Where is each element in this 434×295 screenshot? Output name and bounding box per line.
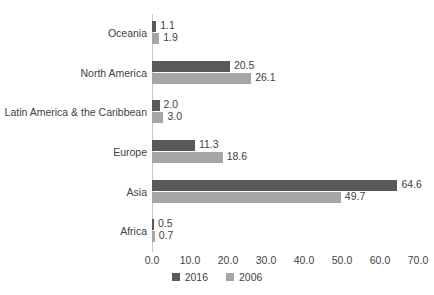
x-axis-tick: 10.0 bbox=[180, 254, 200, 266]
bar-group: 11.318.6 bbox=[152, 133, 418, 173]
legend-label-2006: 2006 bbox=[239, 272, 262, 282]
x-axis-tick: 50.0 bbox=[332, 254, 352, 266]
bar-value-label: 2.0 bbox=[164, 99, 179, 110]
bar-2006[interactable] bbox=[152, 112, 163, 123]
bar-chart: Oceania1.11.9North America20.526.1Latin … bbox=[0, 0, 434, 295]
bar-2006[interactable] bbox=[152, 33, 159, 44]
bar-2016[interactable] bbox=[152, 180, 397, 191]
bar-value-label: 11.3 bbox=[199, 139, 219, 150]
bar-group: 0.50.7 bbox=[152, 212, 418, 252]
x-axis-tick: 0.0 bbox=[145, 254, 160, 266]
x-axis-tick: 30.0 bbox=[256, 254, 276, 266]
bar-group: 2.03.0 bbox=[152, 93, 418, 133]
bar-value-label: 18.6 bbox=[227, 151, 247, 162]
bar-value-label: 0.7 bbox=[159, 230, 174, 241]
bar-2016[interactable] bbox=[152, 219, 154, 230]
x-axis-tick-labels: 0.010.020.030.040.050.060.070.0 bbox=[152, 254, 418, 270]
category-label: Africa bbox=[0, 225, 147, 237]
bar-2016[interactable] bbox=[152, 140, 195, 151]
bar-2006[interactable] bbox=[152, 231, 155, 242]
chart-legend: 2016 2006 bbox=[0, 272, 434, 282]
bar-value-label: 64.6 bbox=[401, 179, 421, 190]
bar-2006[interactable] bbox=[152, 73, 251, 84]
category-label: Latin America & the Caribbean bbox=[0, 106, 147, 118]
category-label: Oceania bbox=[0, 27, 147, 39]
bar-value-label: 1.9 bbox=[163, 32, 178, 43]
x-axis-tick: 70.0 bbox=[408, 254, 428, 266]
bar-value-label: 49.7 bbox=[345, 191, 365, 202]
bar-group: 20.526.1 bbox=[152, 54, 418, 94]
bar-2006[interactable] bbox=[152, 152, 223, 163]
bar-2016[interactable] bbox=[152, 61, 230, 72]
legend-swatch-2016 bbox=[172, 273, 180, 281]
bar-value-label: 20.5 bbox=[234, 60, 254, 71]
category-label: Europe bbox=[0, 146, 147, 158]
legend-swatch-2006 bbox=[226, 273, 234, 281]
x-axis-tick: 60.0 bbox=[370, 254, 390, 266]
bar-value-label: 0.5 bbox=[158, 218, 173, 229]
bar-value-label: 26.1 bbox=[255, 72, 275, 83]
legend-item-2006[interactable]: 2006 bbox=[226, 272, 262, 282]
legend-label-2016: 2016 bbox=[185, 272, 208, 282]
category-label: North America bbox=[0, 67, 147, 79]
bar-group: 64.649.7 bbox=[152, 173, 418, 213]
x-axis-tick: 20.0 bbox=[218, 254, 238, 266]
bar-2016[interactable] bbox=[152, 21, 156, 32]
legend-item-2016[interactable]: 2016 bbox=[172, 272, 208, 282]
bar-value-label: 3.0 bbox=[167, 111, 182, 122]
bar-2006[interactable] bbox=[152, 192, 341, 203]
category-label: Asia bbox=[0, 186, 147, 198]
bar-group: 1.11.9 bbox=[152, 14, 418, 54]
bar-value-label: 1.1 bbox=[160, 20, 175, 31]
bar-2016[interactable] bbox=[152, 100, 160, 111]
x-axis-tick: 40.0 bbox=[294, 254, 314, 266]
